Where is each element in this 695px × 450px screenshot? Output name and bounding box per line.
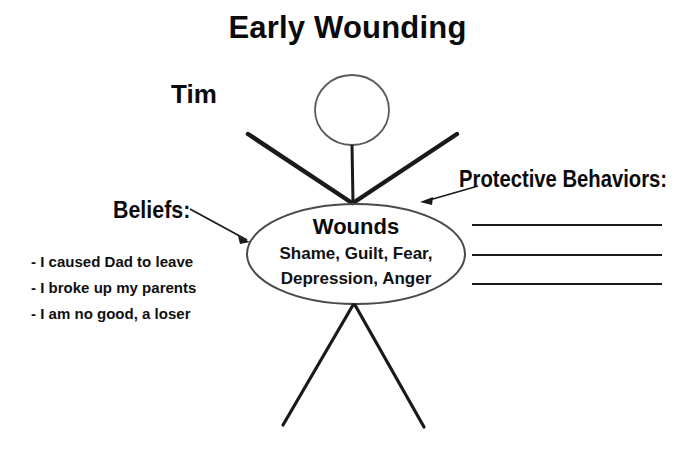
person-name-label: Tim bbox=[171, 81, 217, 107]
left-leg-line bbox=[283, 305, 353, 425]
right-arm-line bbox=[353, 134, 457, 203]
right-leg-line bbox=[355, 305, 424, 427]
wounds-emotions-line-1: Shame, Guilt, Fear, bbox=[251, 245, 461, 262]
list-item: - I caused Dad to leave bbox=[31, 249, 249, 275]
early-wounding-diagram: Early Wounding Tim Beliefs: - I caused D… bbox=[0, 0, 695, 450]
protective-behaviors-blank-line[interactable] bbox=[472, 283, 662, 285]
protective-behaviors-blank-line[interactable] bbox=[472, 224, 662, 226]
protective-behaviors-blank-line[interactable] bbox=[472, 254, 662, 256]
wounds-title: Wounds bbox=[256, 216, 456, 238]
protective-behaviors-heading: Protective Behaviors: bbox=[459, 168, 667, 191]
beliefs-heading: Beliefs: bbox=[113, 199, 190, 222]
beliefs-arrow-icon bbox=[190, 209, 250, 244]
beliefs-list: - I caused Dad to leave - I broke up my … bbox=[31, 249, 256, 327]
page-title: Early Wounding bbox=[0, 12, 695, 43]
list-item: - I am no good, a loser bbox=[31, 301, 249, 327]
list-item: - I broke up my parents bbox=[31, 275, 249, 301]
neck-line bbox=[352, 145, 353, 203]
wounds-emotions-line-2: Depression, Anger bbox=[251, 270, 461, 287]
left-arm-line bbox=[248, 134, 352, 203]
head-circle-icon bbox=[315, 75, 389, 145]
